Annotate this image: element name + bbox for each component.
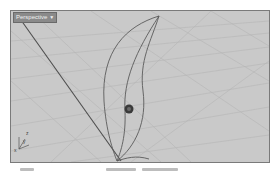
axis-label-y: y (23, 138, 26, 144)
perspective-viewport[interactable]: Perspective ▼ (10, 10, 270, 163)
status-item (106, 168, 136, 171)
viewport-scene[interactable]: z y x (11, 11, 269, 162)
status-strip (20, 165, 270, 173)
triangle-down-icon[interactable]: ▼ (49, 13, 54, 22)
axis-label-z: z (26, 130, 29, 136)
construction-grid (11, 11, 269, 162)
gumball-handle-icon (125, 105, 134, 114)
status-item (20, 168, 34, 171)
leaf-surface-curves (104, 16, 159, 161)
viewport-title-tab[interactable]: Perspective ▼ (13, 12, 57, 23)
viewport-title-label: Perspective (16, 13, 47, 22)
status-item (142, 168, 178, 171)
